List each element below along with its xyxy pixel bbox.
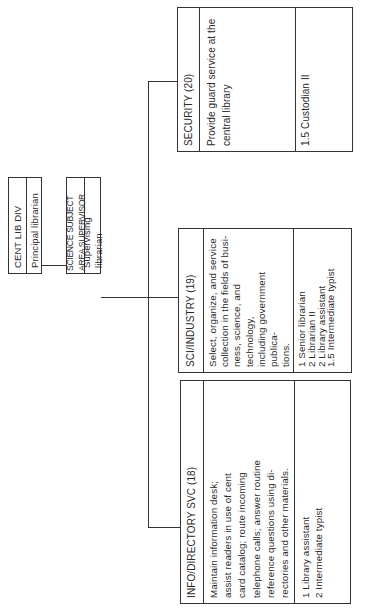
connector-supervisor-to-trunk (101, 297, 178, 298)
unit-title: INFO/DIRECTORY SVC (18) (181, 381, 203, 603)
unit-staff: 1 Library assistant 2 Intermediate typis… (294, 381, 350, 603)
unit-title: SECURITY (20) (178, 8, 199, 151)
org-box-security: SECURITY (20) Provide guard service at t… (177, 7, 353, 152)
connector-to-info-directory (148, 527, 180, 528)
unit-name: CENT LIB DIV (9, 178, 26, 273)
org-box-science-supervisor: SCIENCE SUBJECT AREA SUPERVISOR Supervis… (66, 177, 101, 274)
unit-description: Provide guard service at the central lib… (199, 8, 295, 151)
org-box-sci-industry: SCI/INDUSTRY (19) Select, organize, and … (178, 228, 352, 373)
unit-description: Maintain information desk; assist reader… (203, 381, 294, 603)
connector-root-to-supervisor (42, 265, 66, 266)
position-title: Supervising librarian (84, 178, 101, 273)
connector-to-security (148, 81, 177, 82)
position-title: Principal librarian (26, 178, 42, 273)
connector-trunk (148, 81, 149, 528)
unit-staff: 1.5 Custodian II (295, 8, 352, 151)
unit-staff: 1 Senior librarian 2 Librarian II 2 Libr… (293, 229, 351, 372)
unit-description: Select, organize, and service collection… (203, 229, 293, 372)
org-box-cent-lib-div: CENT LIB DIV Principal librarian (8, 177, 42, 274)
unit-title: SCI/INDUSTRY (19) (179, 229, 203, 372)
org-box-info-directory: INFO/DIRECTORY SVC (18) Maintain informa… (180, 380, 351, 604)
